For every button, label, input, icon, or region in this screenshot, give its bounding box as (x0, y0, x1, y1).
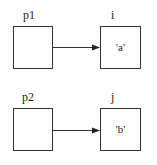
pointer-arrows (0, 0, 157, 165)
arrow-p1-to-i (52, 45, 100, 51)
arrow-p2-to-j (52, 128, 100, 134)
